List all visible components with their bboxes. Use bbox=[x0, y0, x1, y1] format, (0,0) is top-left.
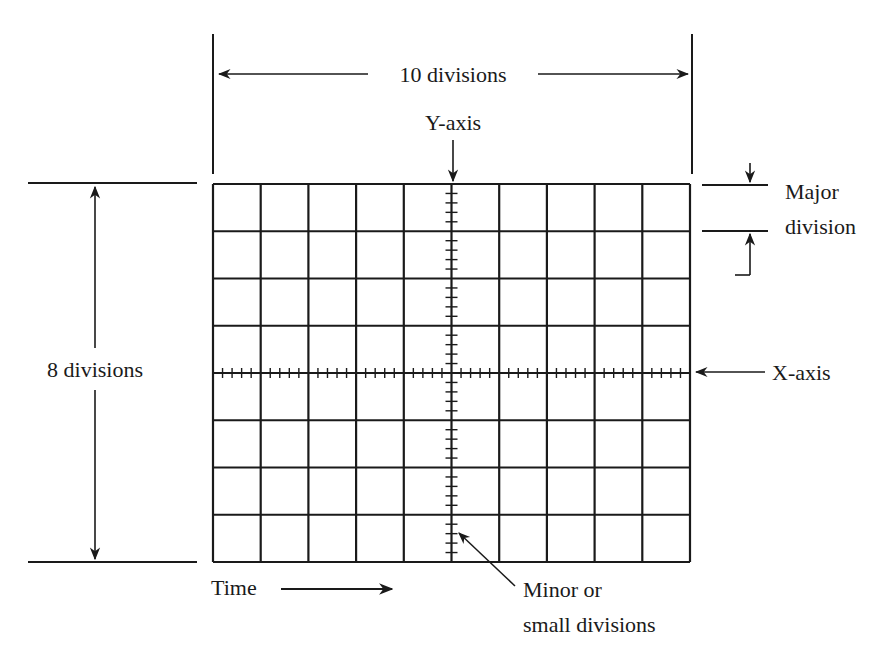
major-division-indicator bbox=[702, 163, 768, 275]
minor-divisions-label-line1: Minor or bbox=[523, 577, 603, 602]
minor-divisions-label-line2: small divisions bbox=[523, 612, 656, 637]
graticule-diagram: 10 divisions Y-axis 8 divisions Major di… bbox=[0, 0, 896, 649]
x-axis-label: X-axis bbox=[772, 360, 831, 385]
horizontal-span-label: 10 divisions bbox=[400, 62, 507, 87]
minor-divisions-arrow bbox=[459, 533, 515, 586]
vertical-span-label: 8 divisions bbox=[47, 357, 143, 382]
major-division-label-line1: Major bbox=[785, 179, 839, 204]
y-axis-label: Y-axis bbox=[425, 110, 481, 135]
major-division-label-line2: division bbox=[785, 214, 856, 239]
time-label: Time bbox=[211, 575, 257, 600]
